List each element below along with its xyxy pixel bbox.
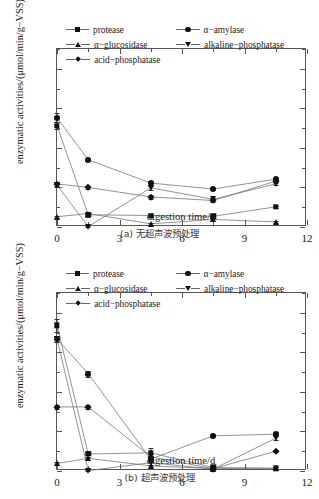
- y-minor-tick: [302, 207, 305, 208]
- series-line: [57, 118, 276, 189]
- y-tick: [300, 108, 305, 109]
- x-tick: [307, 49, 308, 54]
- data-point-marker: [273, 204, 278, 209]
- caption-a: (a) 无超声波预处理: [0, 226, 319, 240]
- diamond-marker-icon: [75, 301, 81, 307]
- y-axis-title-b: enzymatic activities/(μmol/min/g−VSS): [14, 233, 25, 419]
- legend-item-acid-phosphatase: acid−phosphatase: [66, 55, 176, 65]
- square-marker-icon: [75, 271, 80, 276]
- square-marker-icon: [75, 27, 80, 32]
- circle-marker-icon: [185, 271, 191, 277]
- legend-item-alkaline-phosphatase: alkaline−phosphatase: [176, 284, 284, 294]
- plot-area-b: enzymatic activities/(μmol/min/g−VSS) 01…: [0, 258, 319, 474]
- error-bar-cap: [55, 129, 60, 130]
- x-tick: [57, 293, 58, 298]
- legend-item-protease: protease: [66, 25, 176, 35]
- series-lines-b: [57, 293, 307, 471]
- figure-panel-b: enzymatic activities/(μmol/min/g−VSS) 01…: [0, 258, 319, 498]
- legend-label: protease: [93, 25, 124, 35]
- data-point-marker: [85, 371, 91, 377]
- circle-marker-icon: [185, 27, 191, 33]
- y-minor-tick: [57, 168, 60, 169]
- legend-a: protease α−amylase α−glucosidase alkalin…: [66, 22, 296, 67]
- y-minor-tick: [302, 372, 305, 373]
- triangle-down-marker-icon: [185, 42, 191, 47]
- data-point-marker: [210, 433, 216, 439]
- legend-label: protease: [93, 269, 124, 279]
- legend-label: acid−phosphatase: [94, 55, 160, 65]
- data-point-marker: [210, 186, 216, 192]
- data-point-marker: [54, 336, 60, 342]
- legend-item-glucosidase: α−glucosidase: [66, 40, 176, 50]
- x-axis-title-a: digestion time/d: [56, 211, 306, 222]
- legend-label: α−amylase: [204, 269, 245, 279]
- x-tick: [307, 293, 308, 298]
- data-point-marker: [85, 157, 91, 163]
- legend-b: protease α−amylase α−glucosidase alkalin…: [66, 266, 296, 311]
- error-bar-cap: [86, 377, 91, 378]
- y-minor-tick: [302, 293, 305, 294]
- legend-item-acid-phosphatase: acid−phosphatase: [66, 299, 176, 309]
- legend-label: alkaline−phosphatase: [204, 284, 284, 294]
- legend-label: α−glucosidase: [94, 40, 148, 50]
- legend-label: alkaline−phosphatase: [204, 40, 284, 50]
- y-minor-tick: [57, 451, 60, 452]
- y-tick: [300, 187, 305, 188]
- y-minor-tick: [57, 207, 60, 208]
- x-tick: [307, 220, 308, 225]
- error-bar-cap: [55, 332, 60, 333]
- y-tick: [57, 392, 62, 393]
- legend-item-glucosidase: α−glucosidase: [66, 284, 176, 294]
- error-bar-cap: [55, 319, 60, 320]
- x-tick: [307, 464, 308, 469]
- series-line: [57, 126, 276, 217]
- diamond-marker-icon: [75, 57, 81, 63]
- y-tick: [300, 352, 305, 353]
- legend-item-alkaline-phosphatase: alkaline−phosphatase: [176, 40, 284, 50]
- y-tick: [300, 392, 305, 393]
- triangle-up-marker-icon: [75, 286, 81, 291]
- y-minor-tick: [57, 89, 60, 90]
- y-tick: [57, 313, 62, 314]
- x-axis-title-b: digestion time/d: [56, 455, 306, 466]
- triangle-up-marker-icon: [75, 42, 81, 47]
- plot-frame-b: 010203040036912: [56, 292, 306, 470]
- y-axis-title-a: enzymatic activities/(μmol/min/g−VSS): [14, 0, 25, 175]
- y-minor-tick: [302, 333, 305, 334]
- series-line: [57, 325, 276, 468]
- y-minor-tick: [302, 128, 305, 129]
- y-tick: [57, 108, 62, 109]
- y-tick: [300, 69, 305, 70]
- data-point-marker: [54, 123, 59, 128]
- y-tick: [57, 431, 62, 432]
- top-cut-text: [0, 0, 319, 9]
- data-point-marker: [54, 323, 59, 328]
- y-tick: [300, 148, 305, 149]
- y-minor-tick: [302, 451, 305, 452]
- legend-item-amylase: α−amylase: [176, 269, 244, 279]
- series-lines-a: [57, 49, 307, 227]
- figure-panel-a: enzymatic activities/(μmol/min/g−VSS) 01…: [0, 14, 319, 254]
- legend-label: α−glucosidase: [94, 284, 148, 294]
- error-bar-cap: [55, 342, 60, 343]
- y-minor-tick: [57, 412, 60, 413]
- plot-area-a: enzymatic activities/(μmol/min/g−VSS) 01…: [0, 14, 319, 230]
- data-point-marker: [148, 185, 154, 191]
- legend-label: acid−phosphatase: [94, 299, 160, 309]
- series-line: [57, 339, 276, 459]
- plot-frame-a: 010203040036912: [56, 48, 306, 226]
- y-tick: [57, 352, 62, 353]
- y-tick: [300, 431, 305, 432]
- caption-b: (b) 超声波预处理: [0, 470, 319, 484]
- y-tick: [57, 69, 62, 70]
- data-point-marker: [273, 435, 279, 441]
- legend-label: α−amylase: [204, 25, 245, 35]
- triangle-down-marker-icon: [185, 286, 191, 291]
- y-minor-tick: [302, 412, 305, 413]
- data-point-marker: [54, 115, 60, 121]
- y-minor-tick: [57, 372, 60, 373]
- x-tick: [57, 49, 58, 54]
- y-minor-tick: [302, 168, 305, 169]
- y-minor-tick: [302, 49, 305, 50]
- y-minor-tick: [302, 89, 305, 90]
